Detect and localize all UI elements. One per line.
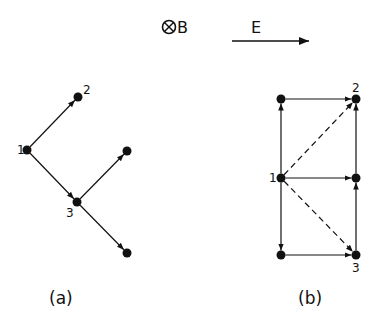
b-edge-1-3: [284, 181, 353, 252]
diagram-b-edges: [281, 99, 356, 255]
b-node-1: [277, 174, 286, 183]
node-b-1-label: 1: [269, 171, 277, 185]
a-node-3: [73, 198, 82, 207]
caption-b: (b): [298, 288, 322, 308]
caption-a: (a): [49, 288, 73, 308]
diagram-a: 1 2 3 (a): [17, 83, 132, 308]
b-field-indicator: B: [163, 18, 188, 37]
b-edge-1-2: [284, 102, 353, 174]
diagram-canvas: B E 1 2 3 (a) 2 1 3 (b): [0, 0, 375, 324]
node-b-3-label: 3: [352, 261, 360, 275]
a-edge-1-2: [30, 100, 75, 147]
node-a-3-label: 3: [66, 206, 74, 220]
e-field-label: E: [251, 18, 261, 37]
node-a-2-label: 2: [83, 83, 91, 97]
b-node-2: [352, 95, 361, 104]
e-field-indicator: E: [232, 18, 309, 41]
node-b-2-label: 2: [352, 81, 360, 95]
a-edge-3-5: [80, 205, 124, 250]
diagram-a-edges: [30, 100, 124, 250]
a-node-5: [123, 249, 132, 258]
b-node-tl: [277, 95, 286, 104]
diagram-b-nodes: [277, 95, 361, 260]
a-node-4: [123, 147, 132, 156]
diagram-b: 2 1 3 (b): [269, 81, 361, 308]
a-edge-1-3: [30, 153, 74, 199]
a-edge-3-4: [80, 154, 124, 199]
b-node-bl: [277, 251, 286, 260]
b-node-mr: [352, 174, 361, 183]
diagram-a-nodes: [23, 93, 132, 258]
a-node-2: [74, 93, 83, 102]
b-field-label: B: [177, 18, 188, 37]
b-node-3: [352, 251, 361, 260]
node-a-1-label: 1: [17, 143, 25, 157]
